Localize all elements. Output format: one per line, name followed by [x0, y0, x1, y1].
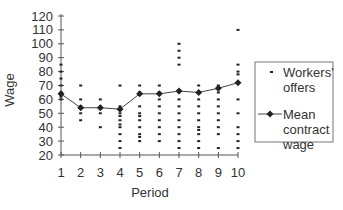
x-axis-title: Period: [131, 185, 169, 200]
legend-label-mean: Mean: [283, 107, 316, 122]
offer-marker: [60, 78, 63, 80]
offer-marker: [60, 64, 63, 66]
offer-marker: [178, 43, 181, 45]
x-tick-label: 4: [116, 165, 123, 180]
offer-marker: [197, 147, 200, 149]
offer-marker: [79, 98, 82, 100]
offer-marker: [237, 147, 240, 149]
offer-marker: [197, 85, 200, 87]
offer-marker: [119, 147, 122, 149]
offer-marker: [158, 126, 161, 128]
offer-marker: [138, 136, 141, 138]
offer-marker: [138, 133, 141, 135]
offer-marker: [119, 140, 122, 142]
offer-marker: [197, 98, 200, 100]
offer-marker: [138, 126, 141, 128]
offer-marker: [237, 71, 240, 73]
x-tick-label: 1: [57, 165, 64, 180]
offer-marker: [178, 57, 181, 59]
wage-chart: 2030405060708090100110120 12345678910 Wa…: [0, 0, 343, 210]
y-tick-label: 20: [39, 148, 53, 163]
offer-marker: [217, 119, 220, 121]
offer-marker: [119, 85, 122, 87]
x-tick-label: 6: [156, 165, 163, 180]
offer-marker: [99, 126, 102, 128]
offer-marker: [197, 129, 200, 131]
offer-marker: [178, 147, 181, 149]
mean-marker: [58, 90, 65, 97]
offer-marker: [197, 119, 200, 121]
x-tick-label: 10: [231, 165, 245, 180]
offer-marker: [119, 115, 122, 117]
offer-marker: [158, 119, 161, 121]
mean-contract-wage-series: [58, 79, 242, 112]
offer-marker: [197, 133, 200, 135]
x-tick-label: 7: [175, 165, 182, 180]
offer-marker: [217, 98, 220, 100]
offer-marker: [158, 112, 161, 114]
mean-marker: [215, 85, 222, 92]
offer-marker: [158, 140, 161, 142]
offer-marker: [79, 85, 82, 87]
offer-marker: [178, 98, 181, 100]
offer-marker: [138, 115, 141, 117]
legend-label-mean: contract: [283, 122, 330, 137]
offer-marker: [217, 133, 220, 135]
y-axis-title: Wage: [2, 73, 17, 106]
offer-marker: [237, 140, 240, 142]
offer-marker: [178, 140, 181, 142]
offer-marker: [119, 123, 122, 125]
offer-marker: [237, 29, 240, 31]
offer-marker: [178, 126, 181, 128]
offer-marker: [237, 98, 240, 100]
offer-marker: [138, 105, 141, 107]
offer-marker: [237, 64, 240, 66]
offer-marker: [119, 119, 122, 121]
offer-marker: [178, 50, 181, 52]
offer-marker: [217, 126, 220, 128]
offer-marker: [197, 126, 200, 128]
legend: Workers'offersMeancontractwage: [255, 62, 334, 152]
offer-marker: [138, 112, 141, 114]
x-tick-label: 8: [195, 165, 202, 180]
mean-marker: [176, 88, 183, 95]
offer-marker: [119, 126, 122, 128]
offer-marker: [99, 98, 102, 100]
offer-marker: [237, 73, 240, 75]
offer-marker: [158, 133, 161, 135]
offer-marker: [178, 119, 181, 121]
offer-marker: [217, 147, 220, 149]
x-tick-label: 5: [136, 165, 143, 180]
legend-label-mean: wage: [282, 137, 314, 152]
offer-marker: [138, 85, 141, 87]
offer-marker: [197, 105, 200, 107]
mean-marker: [97, 104, 104, 111]
y-tick-label: 70: [39, 78, 53, 93]
offer-marker: [138, 140, 141, 142]
offer-marker: [138, 119, 141, 121]
offer-marker: [178, 112, 181, 114]
offer-marker: [119, 133, 122, 135]
y-tick-label: 90: [39, 50, 53, 65]
y-tick-label: 80: [39, 64, 53, 79]
offer-marker: [237, 133, 240, 135]
legend-offer-marker: [270, 71, 273, 73]
offer-marker: [158, 98, 161, 100]
x-tick-label: 3: [97, 165, 104, 180]
offer-marker: [237, 126, 240, 128]
x-tick-label: 9: [215, 165, 222, 180]
mean-line: [61, 83, 238, 109]
offer-marker: [79, 112, 82, 114]
offer-marker: [178, 64, 181, 66]
offer-marker: [217, 105, 220, 107]
axes: [61, 14, 238, 155]
offer-marker: [217, 112, 220, 114]
y-tick-label: 100: [31, 36, 53, 51]
y-tick-label: 40: [39, 120, 53, 135]
offer-marker: [178, 105, 181, 107]
workers-offers-series: [60, 29, 240, 149]
offer-marker: [197, 112, 200, 114]
y-tick-label: 30: [39, 134, 53, 149]
y-axis-ticks: 2030405060708090100110120: [31, 9, 64, 163]
offer-marker: [60, 71, 63, 73]
